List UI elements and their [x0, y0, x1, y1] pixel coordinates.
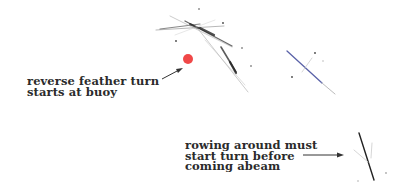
annotation-buoy-line-2: starts at buoy — [27, 87, 159, 98]
annotation-abeam: rowing around must start turn before com… — [185, 140, 317, 172]
annotation-buoy: reverse feather turn starts at buoy — [27, 76, 159, 97]
boat-trail-top — [156, 16, 248, 92]
annotation-abeam-line-3: coming abeam — [185, 161, 317, 172]
boat-trail-bottom — [354, 133, 374, 180]
arrow-to-buoy — [162, 68, 183, 79]
buoy-marker — [183, 54, 193, 64]
boat-trail-mid — [287, 51, 335, 94]
